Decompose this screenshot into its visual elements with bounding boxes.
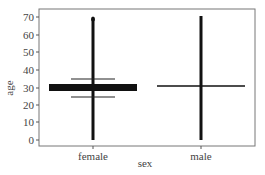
- boxplot-chart: 0 10 20 30 40 50 60 70 age female male s…: [0, 0, 265, 175]
- y-tick-50: 50: [23, 46, 35, 58]
- y-axis: 0 10 20 30 40 50 60 70 age: [3, 11, 39, 146]
- box-male: [157, 16, 245, 140]
- y-tick-70: 70: [23, 11, 35, 23]
- y-tick-20: 20: [23, 99, 35, 111]
- x-tick-male: male: [190, 150, 211, 162]
- box-female: [49, 17, 137, 141]
- y-tick-30: 30: [23, 82, 35, 94]
- x-axis: female male sex: [78, 146, 212, 169]
- plot-frame: [39, 9, 255, 146]
- y-tick-10: 10: [23, 116, 35, 128]
- x-axis-label: sex: [138, 157, 153, 169]
- x-tick-female: female: [78, 150, 108, 162]
- y-tick-60: 60: [23, 29, 35, 41]
- y-tick-0: 0: [29, 134, 35, 146]
- y-tick-40: 40: [23, 64, 35, 76]
- y-axis-label: age: [3, 80, 15, 95]
